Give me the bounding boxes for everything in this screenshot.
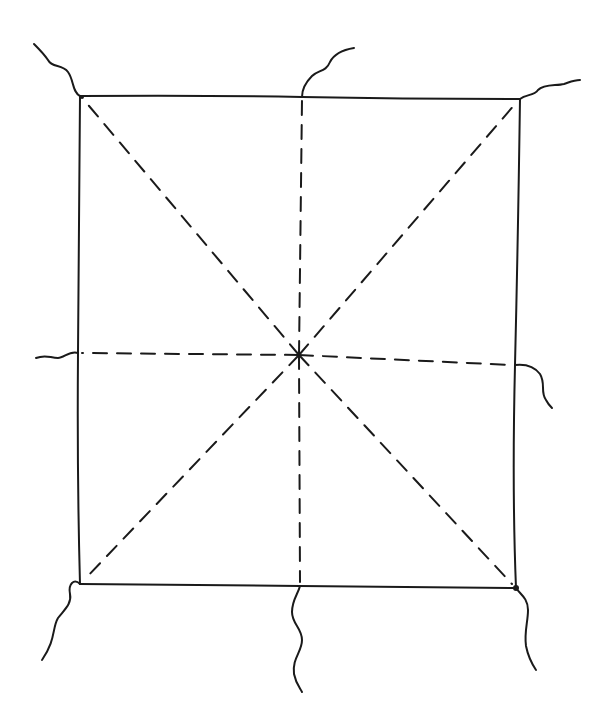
tie-mid-left [36, 352, 78, 358]
tie-bottom-right [516, 588, 536, 670]
tie-top-left [34, 44, 80, 96]
knot-bottom-right [513, 585, 519, 591]
dash-to-bottom-mid [299, 355, 300, 582]
dash-to-top-left [84, 100, 299, 355]
knot-top-left [80, 95, 84, 99]
dash-to-top-right [299, 103, 516, 355]
dash-to-bottom-right [299, 355, 512, 584]
dash-to-bottom-left [84, 355, 299, 580]
right-edge [514, 99, 520, 588]
dash-to-mid-left [82, 353, 299, 355]
dash-to-top-mid [299, 100, 302, 355]
bottom-edge [80, 584, 516, 588]
tie-lines [34, 44, 580, 692]
tie-layout-diagram [0, 0, 609, 714]
tie-bottom-left [42, 582, 80, 660]
dashed-radials [82, 100, 516, 584]
tie-bottom-mid [292, 586, 302, 692]
left-edge [78, 96, 80, 584]
tie-top-right [520, 80, 580, 99]
top-edge [80, 96, 520, 99]
tie-top-mid [302, 48, 354, 97]
tie-mid-right [515, 365, 552, 408]
dash-to-mid-right [299, 355, 512, 365]
